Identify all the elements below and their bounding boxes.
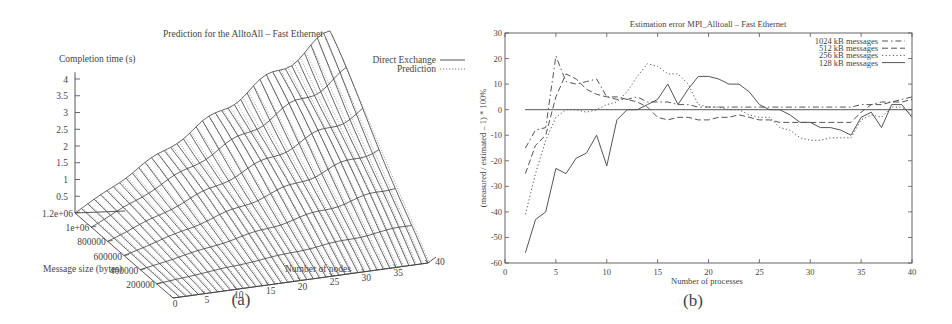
x-tick-label: 35 bbox=[857, 267, 866, 277]
y-tick-label: -60 bbox=[491, 258, 502, 268]
direct-exchange-mesh-line bbox=[209, 116, 307, 280]
y-tick-label: 600000 bbox=[94, 252, 123, 262]
z-tick-label: 1.5 bbox=[56, 158, 68, 168]
prediction-mesh-line bbox=[293, 61, 391, 268]
direct-exchange-mesh-line bbox=[196, 127, 294, 282]
x-tick-label: 25 bbox=[330, 277, 340, 287]
y-tick-label: 20 bbox=[494, 54, 503, 64]
legend-label: 256 kB messages bbox=[819, 50, 878, 60]
direct-exchange-mesh-line bbox=[292, 66, 390, 269]
chart-b-frame bbox=[505, 33, 912, 263]
x-tick-label: 25 bbox=[755, 267, 764, 277]
x-tick-label: 0 bbox=[173, 299, 178, 309]
chart-b-caption: (b) bbox=[683, 291, 703, 310]
prediction-mesh-line bbox=[249, 92, 347, 274]
x-tick-label: 10 bbox=[603, 267, 612, 277]
chart-a-legend: Direct Exchange Prediction bbox=[372, 55, 465, 74]
series-line bbox=[525, 74, 912, 174]
z-tick-label: 2 bbox=[63, 142, 68, 152]
x-tick-label: 40 bbox=[435, 257, 445, 267]
chart-b-title: Estimation error MPI_Alltoall – Fast Eth… bbox=[630, 19, 787, 29]
chart-b-legend: 1024 kB messages512 kB messages256 kB me… bbox=[815, 36, 905, 68]
z-tick-label: 1 bbox=[63, 175, 68, 185]
chart-a-y-label: Message size (bytes) bbox=[43, 264, 122, 275]
x-tick-label: 15 bbox=[653, 267, 662, 277]
chart-b-ticks: 05101520253035403020100-10-20-30-40-50-6… bbox=[491, 28, 917, 277]
y-tick-label: 200000 bbox=[126, 280, 155, 290]
surface-mesh bbox=[75, 31, 430, 298]
prediction-mesh-line bbox=[300, 56, 398, 267]
chart-b-y-label: (measured / estimated – 1) * 100% bbox=[478, 89, 488, 208]
legend-label-prediction: Prediction bbox=[397, 64, 436, 74]
z-tick-label: 3 bbox=[63, 108, 68, 118]
series-line bbox=[525, 76, 912, 252]
z-tick-label: 4 bbox=[63, 75, 68, 85]
legend-label: 1024 kB messages bbox=[815, 36, 878, 46]
y-tick-label: 800000 bbox=[77, 237, 106, 247]
chart-b-x-label: Number of processes bbox=[671, 276, 743, 286]
prediction-mesh-line bbox=[128, 177, 226, 291]
prediction-mesh-line bbox=[134, 173, 232, 290]
legend-label: 512 kB messages bbox=[819, 43, 878, 53]
x-tick-label: 0 bbox=[503, 267, 507, 277]
y-tick-label: -10 bbox=[491, 130, 502, 140]
x-tick-label: 5 bbox=[205, 295, 210, 305]
z-tick-label: 0.5 bbox=[56, 192, 68, 202]
y-tick-label: -50 bbox=[491, 232, 502, 242]
y-tick-label: -40 bbox=[491, 207, 502, 217]
legend-label: 128 kB messages bbox=[819, 58, 878, 68]
direct-exchange-mesh-line bbox=[183, 139, 281, 283]
x-tick-label: 35 bbox=[393, 268, 403, 278]
chart-b-series bbox=[525, 56, 912, 253]
prediction-mesh-line bbox=[319, 43, 417, 265]
y-tick-label: -30 bbox=[491, 181, 502, 191]
direct-exchange-mesh-line bbox=[215, 113, 313, 279]
direct-exchange-mesh-line bbox=[266, 75, 364, 272]
chart-a-caption: (a) bbox=[232, 290, 251, 309]
x-tick-label: 40 bbox=[908, 267, 917, 277]
x-tick-label: 30 bbox=[362, 273, 372, 283]
direct-exchange-mesh-line bbox=[241, 100, 339, 276]
chart-a-z-label: Completion time (s) bbox=[59, 54, 136, 65]
prediction-mesh-line bbox=[306, 52, 404, 267]
x-tick-label: 30 bbox=[806, 267, 815, 277]
chart-a-3d-surface: 0.511.522.533.54051015202530354020000040… bbox=[0, 0, 476, 324]
y-tick-label: 10 bbox=[494, 79, 503, 89]
direct-exchange-mesh-line bbox=[126, 178, 224, 291]
x-tick-label: 20 bbox=[298, 282, 308, 292]
prediction-mesh-line bbox=[242, 97, 340, 276]
y-tick-label: 30 bbox=[494, 28, 503, 38]
x-tick-label: 15 bbox=[266, 286, 276, 296]
y-tick-label: -20 bbox=[491, 156, 502, 166]
z-tick-label: 2.5 bbox=[56, 125, 68, 135]
chart-a-x-label: Number of nodes bbox=[285, 264, 351, 274]
y-tick-label: 1.2e+06 bbox=[42, 209, 73, 219]
z-tick-label: 3.5 bbox=[56, 91, 68, 101]
prediction-mesh-line bbox=[262, 83, 360, 272]
y-tick-label: 1e+06 bbox=[66, 223, 90, 233]
x-tick-label: 20 bbox=[704, 267, 713, 277]
y-tick-label: 0 bbox=[498, 105, 502, 115]
prediction-mesh-line bbox=[255, 88, 353, 274]
chart-a-title: Prediction for the AlltoAll – Fast Ether… bbox=[163, 29, 323, 39]
prediction-mesh-line bbox=[115, 186, 213, 293]
series-line bbox=[525, 64, 912, 215]
x-tick-label: 5 bbox=[554, 267, 558, 277]
series-line bbox=[525, 56, 912, 148]
prediction-mesh-line bbox=[313, 47, 411, 265]
